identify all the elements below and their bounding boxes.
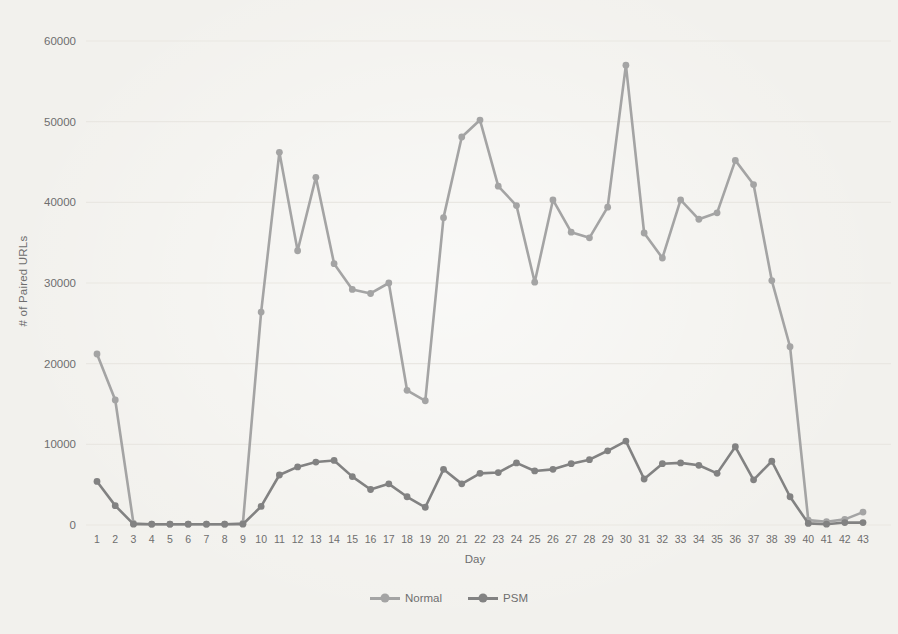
svg-text:23: 23 (492, 533, 504, 545)
svg-text:13: 13 (310, 533, 322, 545)
svg-text:3: 3 (131, 533, 137, 545)
svg-text:10000: 10000 (44, 438, 76, 450)
svg-text:35: 35 (711, 533, 723, 545)
svg-text:34: 34 (693, 533, 705, 545)
svg-text:30000: 30000 (44, 277, 76, 289)
chart-canvas: 0100002000030000400005000060000123456789… (0, 0, 898, 580)
svg-text:4: 4 (149, 533, 155, 545)
svg-text:16: 16 (365, 533, 377, 545)
svg-text:50000: 50000 (44, 116, 76, 128)
svg-text:19: 19 (419, 533, 431, 545)
legend-label-psm: PSM (503, 592, 528, 604)
svg-text:41: 41 (821, 533, 833, 545)
svg-text:40: 40 (802, 533, 814, 545)
svg-text:30: 30 (620, 533, 632, 545)
svg-text:2: 2 (112, 533, 118, 545)
svg-text:32: 32 (657, 533, 669, 545)
svg-text:1: 1 (94, 533, 100, 545)
svg-text:43: 43 (857, 533, 869, 545)
svg-text:60000: 60000 (44, 35, 76, 47)
svg-text:33: 33 (675, 533, 687, 545)
svg-text:38: 38 (766, 533, 778, 545)
svg-text:29: 29 (602, 533, 614, 545)
svg-text:39: 39 (784, 533, 796, 545)
svg-text:20: 20 (438, 533, 450, 545)
svg-text:6: 6 (185, 533, 191, 545)
svg-text:11: 11 (274, 533, 285, 545)
legend: Normal PSM (0, 592, 898, 604)
svg-text:12: 12 (292, 533, 304, 545)
svg-text:37: 37 (748, 533, 760, 545)
svg-text:9: 9 (240, 533, 246, 545)
legend-item-normal: Normal (370, 592, 442, 604)
svg-text:0: 0 (70, 519, 76, 531)
legend-label-normal: Normal (405, 592, 442, 604)
x-axis-title: Day (86, 553, 864, 565)
svg-text:40000: 40000 (44, 196, 76, 208)
legend-item-psm: PSM (468, 592, 528, 604)
svg-text:5: 5 (167, 533, 173, 545)
svg-text:15: 15 (346, 533, 358, 545)
svg-text:31: 31 (638, 533, 650, 545)
svg-text:14: 14 (328, 533, 340, 545)
svg-text:28: 28 (584, 533, 596, 545)
chart: 0100002000030000400005000060000123456789… (0, 0, 898, 634)
svg-text:36: 36 (729, 533, 741, 545)
y-axis-title: # of Paired URLs (17, 211, 29, 351)
svg-text:25: 25 (529, 533, 541, 545)
svg-text:27: 27 (565, 533, 577, 545)
svg-text:24: 24 (511, 533, 523, 545)
svg-text:20000: 20000 (44, 358, 76, 370)
normal-series-marker-icon (370, 597, 400, 600)
svg-text:18: 18 (401, 533, 413, 545)
svg-text:21: 21 (456, 533, 468, 545)
svg-text:42: 42 (839, 533, 851, 545)
svg-text:26: 26 (547, 533, 559, 545)
svg-text:17: 17 (383, 533, 395, 545)
svg-text:8: 8 (222, 533, 228, 545)
svg-text:10: 10 (255, 533, 267, 545)
svg-text:22: 22 (474, 533, 486, 545)
psm-series-marker-icon (468, 597, 498, 600)
svg-text:7: 7 (204, 533, 210, 545)
